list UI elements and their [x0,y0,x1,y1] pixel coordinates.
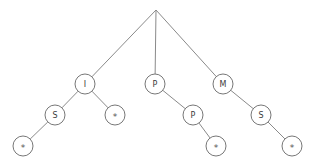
tree-node: I [75,74,95,94]
node-label: P [191,111,196,120]
tree-node: M [213,74,233,94]
tree-edge [156,10,216,77]
tree-edge [92,91,108,108]
node-label: I [84,80,86,89]
tree-node: S [251,105,271,125]
tree-node: S [45,105,65,125]
node-label: * [214,143,219,153]
tree-edge [155,10,156,74]
tree-edge [62,91,78,108]
tree-canvas: IPMS*PS*** [0,0,313,167]
nodes-layer: IPMS*PS*** [13,74,302,156]
tree-edge [268,122,285,139]
node-label: P [153,80,158,89]
node-label: * [113,112,118,122]
tree-edge [92,10,156,77]
tree-node: P [183,105,203,125]
node-label: * [21,143,26,153]
tree-node: * [105,105,125,125]
node-label: S [52,111,57,120]
tree-edge [199,123,210,138]
node-label: M [220,80,227,89]
node-label: S [258,111,263,120]
tree-edge [30,122,48,139]
tree-edge [231,90,254,108]
tree-node: * [282,136,302,156]
tree-node: P [145,74,165,94]
tree-node: * [13,136,33,156]
node-label: * [290,143,295,153]
tree-diagram: IPMS*PS*** [0,0,313,167]
tree-edge [163,90,186,108]
tree-node: * [206,136,226,156]
